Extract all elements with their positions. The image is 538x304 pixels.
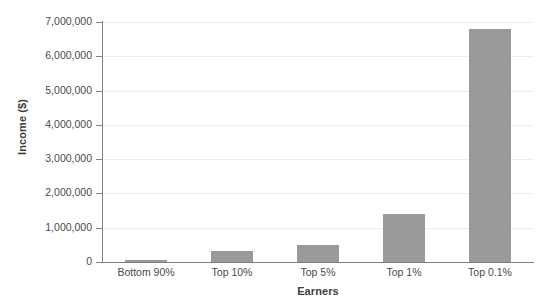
y-axis-tick-label: 1,000,000 <box>6 221 92 233</box>
y-axis-tick-label: 2,000,000 <box>6 186 92 198</box>
bar <box>211 251 253 262</box>
chart-title-remnant <box>0 0 538 4</box>
bar <box>297 245 339 262</box>
bar <box>125 260 167 262</box>
bar <box>383 214 425 262</box>
x-axis-title: Earners <box>103 285 533 297</box>
bar-chart: Income ($) 01,000,0002,000,0003,000,0004… <box>0 0 538 304</box>
x-axis-tick-label: Top 10% <box>189 266 275 278</box>
gridline <box>103 22 533 23</box>
y-axis-tick-label: 3,000,000 <box>6 152 92 164</box>
bar <box>469 29 511 262</box>
x-axis-tick-label: Top 0.1% <box>447 266 533 278</box>
x-axis-tick-label: Bottom 90% <box>103 266 189 278</box>
y-axis-tick-label: 4,000,000 <box>6 118 92 130</box>
x-axis-line <box>103 262 534 263</box>
plot-area <box>103 22 533 262</box>
x-axis-tick-label: Top 5% <box>275 266 361 278</box>
y-axis-tick-label: 0 <box>6 255 92 267</box>
y-axis-tick-label: 7,000,000 <box>6 15 92 27</box>
y-axis-tick-label: 5,000,000 <box>6 84 92 96</box>
x-axis-tick-label: Top 1% <box>361 266 447 278</box>
y-axis-tick-label: 6,000,000 <box>6 49 92 61</box>
